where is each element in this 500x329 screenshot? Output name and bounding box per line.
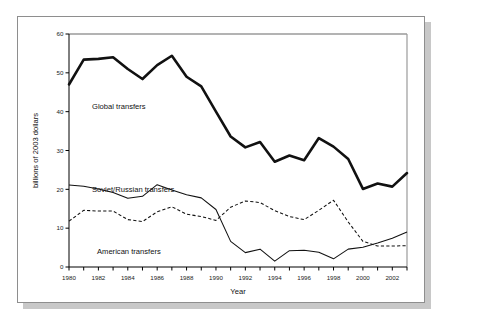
x-axis-tick-label: 2002 (385, 274, 399, 281)
chart-plot-area: 0102030405060198019821984198619881990199… (18, 17, 424, 302)
x-axis-tick-label: 1984 (121, 274, 135, 281)
y-axis-tick-label: 60 (57, 30, 64, 37)
y-axis-tick-label: 30 (57, 147, 64, 154)
y-axis-tick-label: 40 (57, 108, 64, 115)
series-line-soviet-russian-transfers (69, 200, 407, 246)
series-annotation: Global transfers (92, 102, 146, 111)
x-axis-tick-label: 1988 (180, 274, 194, 281)
x-axis-tick-label: 1998 (327, 274, 341, 281)
series-annotation: American transfers (97, 247, 161, 256)
x-axis-tick-label: 1992 (238, 274, 252, 281)
x-axis-tick-label: 1994 (268, 274, 282, 281)
x-axis-tick-label: 1982 (92, 274, 106, 281)
x-axis-tick-label: 1996 (297, 274, 311, 281)
y-axis-tick-label: 10 (57, 224, 64, 231)
y-axis-tick-label: 20 (57, 186, 64, 193)
x-axis-tick-label: 1980 (62, 274, 76, 281)
line-chart: 0102030405060198019821984198619881990199… (18, 17, 424, 302)
y-axis-tick-label: 50 (57, 69, 64, 76)
y-axis-title: billions of 2003 dollars (31, 113, 40, 188)
series-line-global-transfers (69, 56, 407, 189)
y-axis-tick-label: 0 (60, 263, 64, 270)
x-axis-title: Year (230, 287, 246, 296)
series-annotation: Soviet/Russian transfers (92, 185, 175, 194)
x-axis-tick-label: 1990 (209, 274, 223, 281)
x-axis-tick-label: 2000 (356, 274, 370, 281)
x-axis-tick-label: 1986 (150, 274, 164, 281)
chart-card: 0102030405060198019821984198619881990199… (17, 16, 425, 303)
